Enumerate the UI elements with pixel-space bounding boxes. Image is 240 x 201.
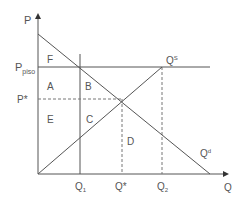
q-star-label: Q* [115, 181, 127, 192]
region-f-label: F [47, 54, 53, 65]
price-floor-diagram: P Q Ppiso P* Q1 Q* Q2 QS Qd F A B E C D [0, 0, 240, 201]
q2-label: Q2 [157, 181, 169, 193]
region-b-label: B [85, 81, 92, 92]
y-axis-label: P [24, 14, 31, 26]
region-a-label: A [47, 81, 54, 92]
region-d-label: D [127, 136, 134, 147]
region-c-label: C [86, 114, 93, 125]
price-floor-label: Ppiso [15, 61, 35, 76]
demand-label: Qd [200, 148, 211, 159]
q1-label: Q1 [75, 181, 87, 193]
p-star-label: P* [17, 94, 28, 105]
x-axis-label: Q [224, 182, 232, 193]
supply-curve [38, 67, 162, 174]
region-e-label: E [47, 114, 54, 125]
supply-label: QS [166, 55, 178, 66]
demand-curve [38, 34, 210, 174]
